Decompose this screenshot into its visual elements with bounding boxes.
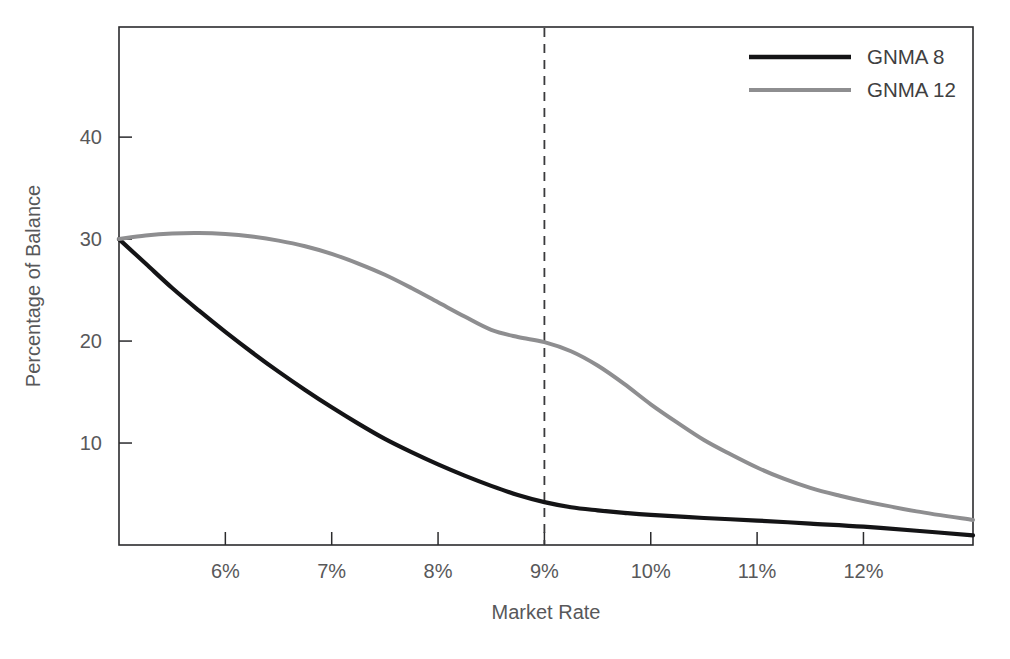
legend-label-gnma-8: GNMA 8	[867, 45, 944, 68]
chart-canvas: 10203040 6%7%8%9%10%11%12% Market Rate P…	[0, 0, 1010, 659]
x-tick-label-7%: 7%	[317, 560, 346, 582]
x-tick-label-11%: 11%	[738, 560, 777, 582]
x-tick-label-9%: 9%	[530, 560, 559, 582]
y-tick-label-30: 30	[80, 228, 102, 250]
x-tick-label-12%: 12%	[843, 560, 883, 582]
y-tick-label-20: 20	[80, 330, 102, 352]
chart-container: 10203040 6%7%8%9%10%11%12% Market Rate P…	[0, 0, 1010, 659]
x-tick-label-10%: 10%	[631, 560, 671, 582]
y-axis-title: Percentage of Balance	[22, 185, 44, 387]
y-tick-label-10: 10	[80, 432, 102, 454]
x-axis-title: Market Rate	[492, 601, 601, 623]
x-tick-label-6%: 6%	[211, 560, 240, 582]
y-tick-label-40: 40	[80, 126, 102, 148]
legend-label-gnma-12: GNMA 12	[867, 78, 956, 101]
x-tick-label-8%: 8%	[424, 560, 453, 582]
